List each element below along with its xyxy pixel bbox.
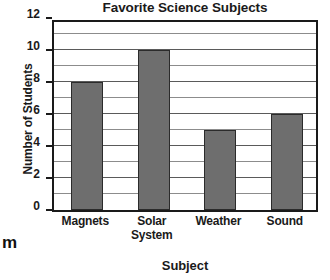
x-tick-label-magnets: Magnets xyxy=(52,214,119,228)
x-tick-label-line: System xyxy=(119,228,186,242)
y-tick-label-4: 4 xyxy=(33,135,40,149)
x-tick-label-line: Solar xyxy=(119,214,186,228)
y-tick-label-8: 8 xyxy=(33,71,40,85)
margin-text-fragment: m xyxy=(2,233,17,253)
bar-weather xyxy=(204,130,236,210)
y-tick-label-12: 12 xyxy=(27,7,40,21)
bar-magnets xyxy=(71,82,103,210)
bar-sound xyxy=(271,114,303,210)
x-axis-tick-labels: MagnetsSolarSystemWeatherSound xyxy=(52,214,318,254)
chart-title: Favorite Science Subjects xyxy=(52,0,318,15)
x-tick-label-solar-system: SolarSystem xyxy=(119,214,186,242)
y-tick-label-2: 2 xyxy=(33,167,40,181)
bar-series xyxy=(54,22,316,210)
x-tick-label-line: Sound xyxy=(252,214,319,228)
x-tick-label-line: Weather xyxy=(185,214,252,228)
y-axis-ticks: 024681012 xyxy=(0,20,52,212)
y-tick-label-6: 6 xyxy=(33,103,40,117)
x-tick-label-line: Magnets xyxy=(52,214,119,228)
y-tick-label-10: 10 xyxy=(27,39,40,53)
y-tick-mark-12 xyxy=(46,17,52,19)
y-tick-label-0: 0 xyxy=(33,199,40,213)
bar-solar-system xyxy=(138,50,170,210)
plot-area xyxy=(52,20,318,212)
x-axis-title: Subject xyxy=(52,258,318,273)
x-tick-label-weather: Weather xyxy=(185,214,252,228)
x-tick-label-sound: Sound xyxy=(252,214,319,228)
